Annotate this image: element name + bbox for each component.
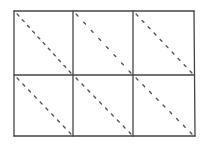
diagonal-dot — [172, 52, 174, 54]
diagonal-dot — [88, 90, 90, 92]
cell-1-2-diagonal — [136, 78, 192, 134]
diagonal-dot — [117, 120, 119, 122]
diagonal-dot — [170, 112, 172, 114]
diagonal-dot — [106, 108, 108, 110]
diagonal-dot — [106, 47, 108, 49]
cell-0-2-diagonal — [136, 14, 192, 73]
diagonal-dot — [63, 126, 65, 128]
diagonal-dot — [46, 108, 48, 110]
diagonal-dot — [84, 22, 86, 24]
diagonal-dot — [69, 132, 71, 134]
diagonal-dot — [29, 90, 31, 92]
diagonal-dot — [17, 14, 19, 16]
diagonal-dot — [28, 26, 30, 28]
frame-right-edge — [194, 11, 195, 136]
cell-0-1-diagonal — [76, 14, 131, 73]
diagonal-dot — [129, 132, 131, 134]
diagonal-dot — [69, 71, 71, 73]
diagonal-dot — [38, 37, 40, 39]
diagonal-dot — [100, 102, 102, 104]
diagonal-dot — [183, 125, 185, 127]
diagonal-dot — [143, 85, 145, 87]
diagonal-dot — [76, 14, 78, 16]
diagonal-dot — [22, 20, 24, 22]
diagonal-dot — [123, 126, 125, 128]
diagonal-dot — [17, 78, 19, 80]
diagonal-dot — [154, 33, 156, 35]
diagonal-dot — [23, 84, 25, 86]
diagonal-dot — [178, 58, 180, 60]
diagonal-dot — [58, 120, 60, 122]
diagonal-dot — [34, 96, 36, 98]
diagonal-dot — [166, 46, 168, 48]
cell-1-0-diagonal — [17, 78, 71, 134]
diagonal-dot — [52, 114, 54, 116]
diagonal-dot — [160, 39, 162, 41]
diagonal-dot — [40, 102, 42, 104]
diagonal-dot — [156, 98, 158, 100]
diagonal-dot — [33, 31, 35, 33]
diagonal-dot — [136, 78, 138, 80]
diagonal-dot — [122, 63, 124, 65]
diagonal-dot — [82, 84, 84, 86]
grid-frame — [14, 11, 195, 136]
diagonal-dot — [76, 78, 78, 80]
diagonal-dot — [111, 114, 113, 116]
diagonal-dot — [184, 65, 186, 67]
diagonal-dot — [91, 30, 93, 32]
diagonal-dot — [59, 60, 61, 62]
diagonal-dot — [142, 20, 144, 22]
diagonal-dot — [163, 105, 165, 107]
diagonal-dot — [94, 96, 96, 98]
diagonal-dot — [129, 71, 131, 73]
diagonal-dot — [177, 119, 179, 121]
diagonal-dot — [150, 92, 152, 94]
grid-diagram — [0, 0, 204, 147]
diagonal-dot — [114, 55, 116, 57]
cell-0-0-diagonal — [17, 14, 71, 73]
diagonal-dot — [48, 48, 50, 50]
diagonal-dot — [64, 65, 66, 67]
diagonal-dotted-lines — [17, 14, 192, 134]
diagonal-dot — [190, 132, 192, 134]
cell-1-1-diagonal — [76, 78, 131, 134]
diagonal-dot — [99, 39, 101, 41]
diagonal-dot — [190, 71, 192, 73]
diagonal-dot — [136, 14, 138, 16]
diagonal-dot — [148, 27, 150, 29]
diagonal-dot — [43, 43, 45, 45]
diagonal-dot — [54, 54, 56, 56]
